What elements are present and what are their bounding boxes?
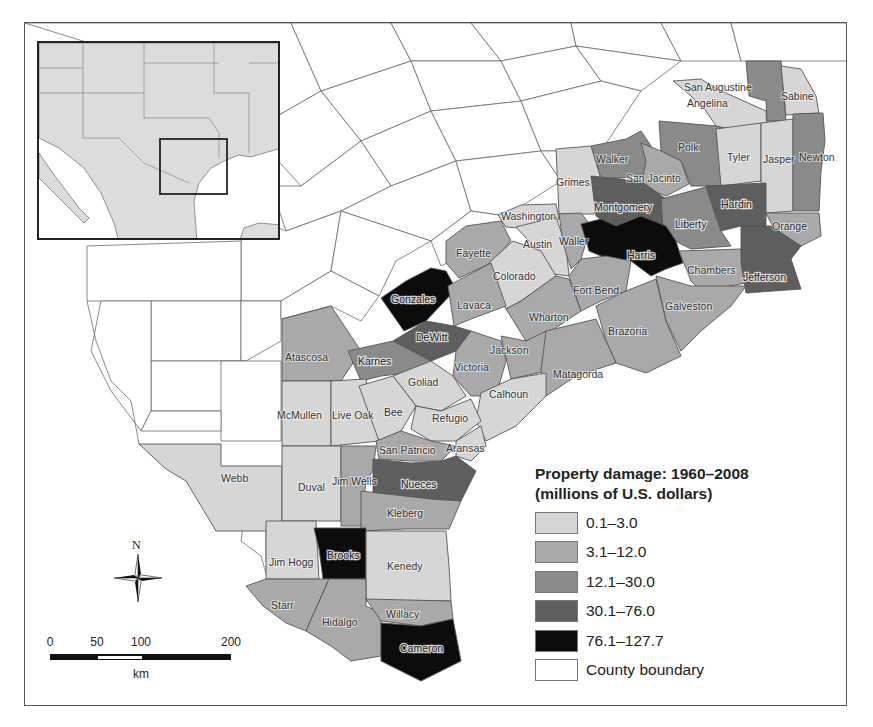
label: Jackson (490, 344, 529, 356)
label: Jefferson (743, 271, 786, 283)
label: Matagorda (553, 368, 603, 380)
label: Polk (678, 141, 699, 153)
legend-swatch (535, 571, 578, 593)
label: Tyler (727, 151, 750, 163)
label: Jim Wells (332, 475, 377, 487)
legend-swatch (535, 630, 578, 652)
label: Angelina (687, 97, 728, 109)
county-jim-hogg[interactable] (266, 521, 319, 579)
label: Goliad (408, 376, 439, 388)
scale-tick: 50 (90, 635, 103, 649)
legend-label: 76.1–127.7 (586, 632, 664, 650)
label: Walker (596, 153, 629, 165)
label: Hidalgo (322, 616, 358, 628)
label: Atascosa (285, 351, 328, 363)
label: Brazoria (608, 325, 647, 337)
label: Fort Bend (573, 284, 619, 296)
legend-label: 3.1–12.0 (586, 543, 646, 561)
label: Orange (772, 220, 807, 232)
legend-title-line2: (millions of U.S. dollars) (535, 484, 749, 504)
scale-tick: 100 (131, 635, 151, 649)
label: Jasper (763, 153, 795, 165)
label: Hardin (721, 198, 752, 210)
label: Live Oak (332, 409, 374, 421)
label: Lavaca (457, 299, 491, 311)
label: Austin (523, 238, 552, 250)
label: Grimes (556, 176, 590, 188)
legend-label: 0.1–3.0 (586, 514, 638, 532)
legend-swatch (535, 659, 578, 681)
legend-label: 12.1–30.0 (586, 573, 655, 591)
label: Duval (298, 481, 325, 493)
label: Willacy (386, 608, 420, 620)
legend-label: 30.1–76.0 (586, 602, 655, 620)
label: Refugio (432, 412, 468, 424)
legend-item: 30.1–76.0 (535, 597, 749, 627)
label: Jim Hogg (269, 556, 314, 568)
legend-item: 12.1–30.0 (535, 567, 749, 597)
label: Starr (271, 599, 294, 611)
scale-unit: km (133, 667, 149, 681)
legend-swatch (535, 541, 578, 563)
legend-item: 0.1–3.0 (535, 508, 749, 538)
label: Liberty (675, 218, 707, 230)
label: McMullen (277, 409, 322, 421)
legend: Property damage: 1960–2008 (millions of … (535, 464, 749, 685)
north-arrow: N (108, 538, 168, 613)
compass-rose-icon (108, 550, 168, 620)
label: Fayette (456, 247, 491, 259)
map-frame: San Augustine Angelina Sabine Polk Tyler… (24, 22, 847, 706)
label: San Jacinto (626, 172, 681, 184)
label: Wharton (529, 311, 569, 323)
inset-map-svg (39, 43, 280, 240)
label: Montgomery (594, 201, 653, 213)
scale-bar-graphic (50, 654, 231, 660)
label: Nueces (401, 478, 437, 490)
label: Bee (384, 406, 403, 418)
scale-bar: 0 50 100 200 km (45, 635, 245, 685)
legend-item: County boundary (535, 656, 749, 686)
label: Chambers (687, 264, 735, 276)
label: Kenedy (387, 560, 423, 572)
label: Aransas (446, 442, 485, 454)
label: Calhoun (489, 388, 528, 400)
legend-label: County boundary (586, 661, 704, 679)
label: Newton (799, 151, 835, 163)
scale-tick: 200 (221, 635, 241, 649)
legend-item: 3.1–12.0 (535, 538, 749, 568)
label: Colorado (493, 270, 536, 282)
legend-swatch (535, 600, 578, 622)
inset-locator-map (37, 41, 280, 240)
county-atascosa[interactable] (282, 306, 361, 381)
label: Sabine (781, 90, 814, 102)
label: Karnes (358, 355, 391, 367)
label: Waller (559, 235, 589, 247)
label: San Augustine (684, 81, 752, 93)
scale-tick: 0 (47, 635, 54, 649)
label: Galveston (665, 300, 712, 312)
legend-swatch (535, 512, 578, 534)
label: Victoria (454, 361, 489, 373)
label: San Patricio (379, 444, 436, 456)
label: Harris (627, 249, 655, 261)
label: Gonzales (391, 293, 435, 305)
label: Kleberg (387, 507, 423, 519)
label: Webb (221, 472, 248, 484)
county-webb[interactable] (139, 444, 282, 531)
label: DeWitt (416, 331, 448, 343)
label: Washington (501, 210, 556, 222)
legend-item: 76.1–127.7 (535, 626, 749, 656)
label: Brooks (327, 549, 360, 561)
label: Cameron (400, 642, 443, 654)
legend-title-line1: Property damage: 1960–2008 (535, 464, 749, 484)
